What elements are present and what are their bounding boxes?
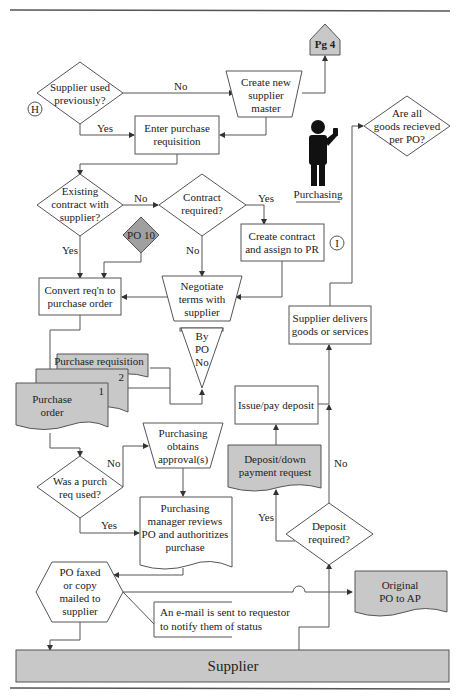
svg-text:supplier: supplier (62, 605, 98, 617)
svg-text:Supplier used: Supplier used (50, 81, 111, 93)
label-yes: Yes (97, 122, 113, 134)
svg-text:PO and authoritizes: PO and authoritizes (142, 528, 229, 540)
svg-text:approval(s): approval(s) (158, 453, 208, 466)
svg-text:payment request: payment request (239, 466, 311, 478)
lane-supplier[interactable]: Supplier (16, 650, 449, 682)
svg-text:Enter purchase: Enter purchase (144, 122, 210, 134)
svg-text:Deposit: Deposit (312, 520, 346, 532)
svg-text:PO 10: PO 10 (127, 229, 155, 241)
svg-text:or copy: or copy (63, 579, 97, 591)
label-no: No (186, 244, 200, 256)
edge-docs-to-file (150, 368, 202, 404)
offpage-po10[interactable]: PO 10 (123, 217, 159, 253)
svg-text:Original: Original (382, 579, 419, 591)
decision-deposit-required[interactable]: Deposit required? (286, 503, 373, 565)
offpage-pg4[interactable]: Pg 4 (310, 24, 340, 55)
svg-text:mailed to: mailed to (59, 592, 101, 604)
svg-text:Issue/pay deposit: Issue/pay deposit (238, 399, 314, 411)
svg-text:Supplier: Supplier (208, 658, 259, 674)
svg-text:Create contract: Create contract (249, 230, 316, 242)
svg-text:goods recieved: goods recieved (374, 120, 441, 132)
document-manager-reviews[interactable]: Purchasing manager reviews PO and author… (140, 497, 232, 569)
annotation-email: An e-mail is sent to requestor to notify… (154, 602, 290, 637)
edge-faxed-to-email (123, 592, 154, 624)
lane-label-purchasing: Purchasing (294, 188, 343, 200)
svg-text:Contract: Contract (183, 191, 221, 203)
svg-text:Purchase requisition: Purchase requisition (54, 355, 144, 367)
connector-h: H (28, 102, 42, 116)
svg-text:PO faxed: PO faxed (59, 566, 101, 578)
process-supplier-delivers[interactable]: Supplier delivers goods or services (289, 306, 371, 344)
svg-text:PO to AP: PO to AP (379, 592, 421, 604)
process-convert-req[interactable]: Convert req'n to purchase order (39, 278, 121, 315)
svg-text:per PO?: per PO? (389, 133, 425, 145)
svg-text:PO: PO (195, 343, 209, 355)
decision-existing-contract[interactable]: Existing contract with supplier? (37, 174, 123, 236)
svg-text:and assign to PR: and assign to PR (245, 243, 319, 255)
process-create-contract[interactable]: Create contract and assign to PR (241, 224, 324, 261)
svg-text:I: I (335, 237, 339, 249)
svg-text:purchase: purchase (165, 541, 204, 553)
label-yes: Yes (258, 511, 274, 523)
svg-text:Purchasing: Purchasing (159, 427, 208, 439)
svg-text:goods or services: goods or services (292, 325, 368, 337)
bottom-rule (10, 688, 450, 689)
file-by-po-no[interactable]: By PO No (180, 328, 223, 388)
svg-text:required?: required? (308, 533, 350, 545)
svg-text:supplier: supplier (184, 306, 220, 318)
label-yes: Yes (258, 192, 274, 204)
process-create-supplier[interactable]: Create new supplier master (226, 71, 302, 117)
svg-text:An e-mail is sent to requestor: An e-mail is sent to requestor (160, 606, 290, 618)
svg-text:previously?: previously? (54, 94, 105, 106)
svg-text:req used?: req used? (59, 488, 101, 500)
label-no: No (107, 457, 121, 469)
label-no: No (174, 80, 188, 92)
svg-text:Purchasing: Purchasing (161, 502, 210, 514)
decision-goods-received[interactable]: Are all goods recieved per PO? (364, 96, 450, 156)
svg-text:Create new: Create new (241, 76, 291, 88)
svg-text:supplier?: supplier? (60, 211, 100, 223)
svg-text:H: H (31, 103, 39, 115)
svg-text:Was a purch: Was a purch (53, 475, 108, 487)
process-issue-deposit[interactable]: Issue/pay deposit (235, 386, 318, 424)
process-enter-requisition[interactable]: Enter purchase requisition (135, 116, 219, 154)
edge-waspurch-no (123, 446, 148, 487)
edge-create-to-enter (220, 117, 266, 135)
person-icon (309, 120, 338, 186)
edge-create-to-pg4 (302, 56, 325, 93)
edge-enter-to-existing (80, 154, 177, 175)
document-deposit-request[interactable]: Deposit/down payment request (228, 445, 321, 491)
svg-text:Deposit/down: Deposit/down (244, 453, 306, 465)
svg-text:Negotiate: Negotiate (181, 280, 224, 292)
connector-i: I (330, 236, 344, 250)
edge-contract-yes (246, 205, 264, 224)
document-original-po[interactable]: Original PO to AP (355, 571, 447, 616)
svg-text:to notify them of status: to notify them of status (160, 620, 262, 632)
svg-text:By: By (196, 330, 209, 342)
label-no: No (334, 457, 348, 469)
svg-text:requisition: requisition (153, 135, 201, 147)
svg-text:Purchase: Purchase (32, 393, 72, 405)
process-po-faxed[interactable]: PO faxed or copy mailed to supplier (36, 562, 123, 622)
svg-text:1: 1 (99, 385, 105, 397)
process-negotiate[interactable]: Negotiate terms with supplier (162, 276, 242, 321)
top-rule (10, 10, 450, 11)
edge-delivers-to-goods (330, 126, 363, 306)
edge-faxed-to-original (123, 586, 352, 592)
document-purchase-order[interactable]: 1 Purchase order (16, 383, 108, 430)
label-yes: Yes (101, 519, 117, 531)
svg-text:terms with: terms with (179, 293, 226, 305)
label-yes: Yes (62, 244, 78, 256)
svg-text:No: No (195, 356, 209, 368)
svg-text:order: order (40, 406, 64, 418)
svg-text:Are all: Are all (392, 107, 422, 119)
decision-supplier-used[interactable]: Supplier used previously? (37, 62, 123, 124)
svg-text:Pg 4: Pg 4 (315, 38, 336, 50)
process-obtains-approval[interactable]: Purchasing obtains approval(s) (143, 423, 223, 468)
svg-text:master: master (251, 102, 281, 114)
edge-faxed-to-supplier (50, 622, 80, 650)
svg-text:Supplier delivers: Supplier delivers (293, 312, 368, 324)
svg-text:contract with: contract with (51, 198, 109, 210)
decision-contract-required[interactable]: Contract required? (159, 174, 246, 236)
edge-createcontract-to-negotiate (236, 261, 282, 297)
